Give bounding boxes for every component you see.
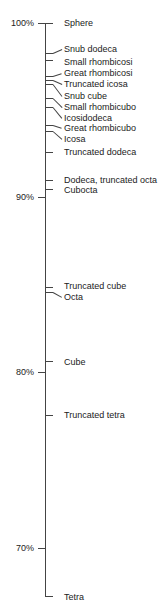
leader-line bbox=[53, 98, 63, 108]
data-point-tick bbox=[45, 76, 53, 77]
data-point-tick bbox=[45, 180, 53, 181]
data-point-tick bbox=[45, 596, 53, 597]
data-point-label: Snub dodeca bbox=[64, 44, 117, 54]
data-point-label: Dodeca, truncated octa bbox=[64, 175, 157, 185]
data-point-label: Cubocta bbox=[64, 185, 98, 195]
data-point-tick bbox=[45, 415, 53, 416]
data-point-label: Icosidodeca bbox=[64, 113, 112, 123]
polyhedra-sphericity-chart: 100% 90% 80% 70% SphereSnub dodecaSmall … bbox=[0, 0, 167, 613]
leader-line bbox=[53, 125, 62, 129]
leader-line bbox=[53, 84, 63, 97]
y-tick-70 bbox=[38, 548, 45, 549]
data-point-label: Great rhombicubo bbox=[64, 123, 136, 133]
leader-line bbox=[53, 292, 62, 298]
y-tick-label-90: 90% bbox=[0, 192, 34, 202]
data-point-label: Cube bbox=[64, 357, 86, 367]
data-point-label: Octa bbox=[64, 292, 83, 302]
data-point-label: Small rhombicosi bbox=[64, 57, 133, 67]
data-point-tick bbox=[45, 23, 53, 24]
data-point-label: Tetra bbox=[64, 592, 84, 602]
data-point-label: Truncated dodeca bbox=[64, 147, 136, 157]
y-tick-label-80: 80% bbox=[0, 367, 34, 377]
leader-line bbox=[53, 80, 62, 85]
leader-line bbox=[53, 107, 63, 119]
data-point-label: Truncated icosa bbox=[64, 79, 128, 89]
y-tick-90 bbox=[38, 197, 45, 198]
y-tick-label-70: 70% bbox=[0, 543, 34, 553]
data-point-tick bbox=[45, 53, 53, 54]
y-tick-80 bbox=[38, 372, 45, 373]
data-point-tick bbox=[45, 152, 53, 153]
data-point-label: Snub cube bbox=[64, 91, 107, 101]
data-point-label: Small rhombicubo bbox=[64, 102, 136, 112]
data-point-tick bbox=[45, 189, 53, 190]
leader-line bbox=[53, 49, 62, 54]
leader-line bbox=[53, 131, 63, 140]
data-point-label: Great rhombicosi bbox=[64, 68, 133, 78]
data-point-tick bbox=[45, 60, 53, 61]
data-point-tick bbox=[45, 287, 53, 288]
data-point-label: Truncated cube bbox=[64, 281, 126, 291]
y-axis-line bbox=[45, 23, 46, 596]
leader-line bbox=[53, 73, 62, 77]
data-point-tick bbox=[45, 361, 53, 362]
y-tick-label-100: 100% bbox=[0, 18, 34, 28]
data-point-label: Sphere bbox=[64, 18, 93, 28]
data-point-label: Icosa bbox=[64, 134, 86, 144]
data-point-label: Truncated tetra bbox=[64, 410, 125, 420]
